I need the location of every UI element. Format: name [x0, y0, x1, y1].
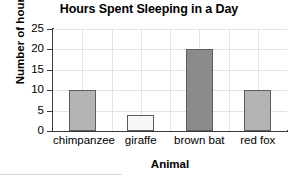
- y-tick-label: 20: [14, 43, 44, 55]
- bar: [244, 90, 271, 131]
- y-tick-mark: [47, 111, 53, 112]
- bar: [186, 49, 213, 131]
- y-tick-label: 10: [14, 84, 44, 96]
- y-tick-label: 15: [14, 64, 44, 76]
- plot-area: [53, 29, 287, 131]
- x-tick-label: red fox: [229, 134, 288, 147]
- gridline-vertical: [112, 29, 113, 131]
- gridline-vertical: [170, 29, 171, 131]
- y-tick-mark: [47, 131, 53, 132]
- x-tick-label: chimpanzee: [53, 134, 112, 147]
- y-tick-mark: [47, 29, 53, 30]
- y-tick-mark: [47, 70, 53, 71]
- footer-rule: [0, 174, 122, 175]
- bar: [127, 115, 154, 131]
- x-tick-label: giraffe: [112, 134, 171, 147]
- y-tick-mark: [47, 90, 53, 91]
- y-tick-label: 0: [14, 125, 44, 137]
- gridline-vertical: [229, 29, 230, 131]
- y-tick-label: 5: [14, 105, 44, 117]
- chart-title: Hours Spent Sleeping in a Day: [0, 2, 298, 16]
- y-tick-label: 25: [14, 23, 44, 35]
- x-tick-label: brown bat: [170, 134, 229, 147]
- bar: [69, 90, 96, 131]
- y-tick-mark: [47, 49, 53, 50]
- bar-chart: Hours Spent Sleeping in a Day Number of …: [0, 0, 298, 178]
- x-axis-title: Animal: [53, 158, 287, 170]
